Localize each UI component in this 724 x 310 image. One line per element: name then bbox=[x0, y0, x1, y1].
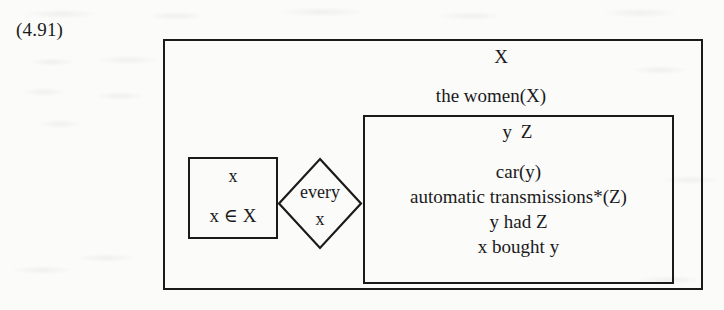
restrictor-universe-marker: x bbox=[190, 167, 276, 185]
scope-drs-box: y Z car(y) automatic transmissions*(Z) y… bbox=[363, 115, 674, 284]
equation-number: (4.91) bbox=[16, 20, 63, 39]
scope-condition-2: y had Z bbox=[365, 209, 672, 234]
restrictor-condition: x ∈ X bbox=[190, 206, 276, 225]
restrictor-drs-box: x x ∈ X bbox=[188, 157, 278, 239]
quantifier-bound-variable: x bbox=[277, 210, 363, 228]
outer-box-universe-marker: X bbox=[233, 47, 724, 66]
scope-condition-1: automatic transmissions*(Z) bbox=[365, 184, 672, 209]
scope-condition-3: x bought y bbox=[365, 234, 672, 259]
quantifier-label: every bbox=[277, 183, 363, 201]
scope-condition-list: car(y) automatic transmissions*(Z) y had… bbox=[365, 159, 672, 259]
scope-universe-markers: y Z bbox=[365, 122, 672, 141]
outer-drs-box: X the women(X) x x ∈ X every x y Z car(y… bbox=[163, 39, 703, 290]
diamond-outline-icon bbox=[277, 157, 363, 250]
scope-condition-0: car(y) bbox=[365, 159, 672, 184]
quantifier-diamond: every x bbox=[277, 157, 363, 250]
outer-box-condition: the women(X) bbox=[223, 86, 724, 105]
